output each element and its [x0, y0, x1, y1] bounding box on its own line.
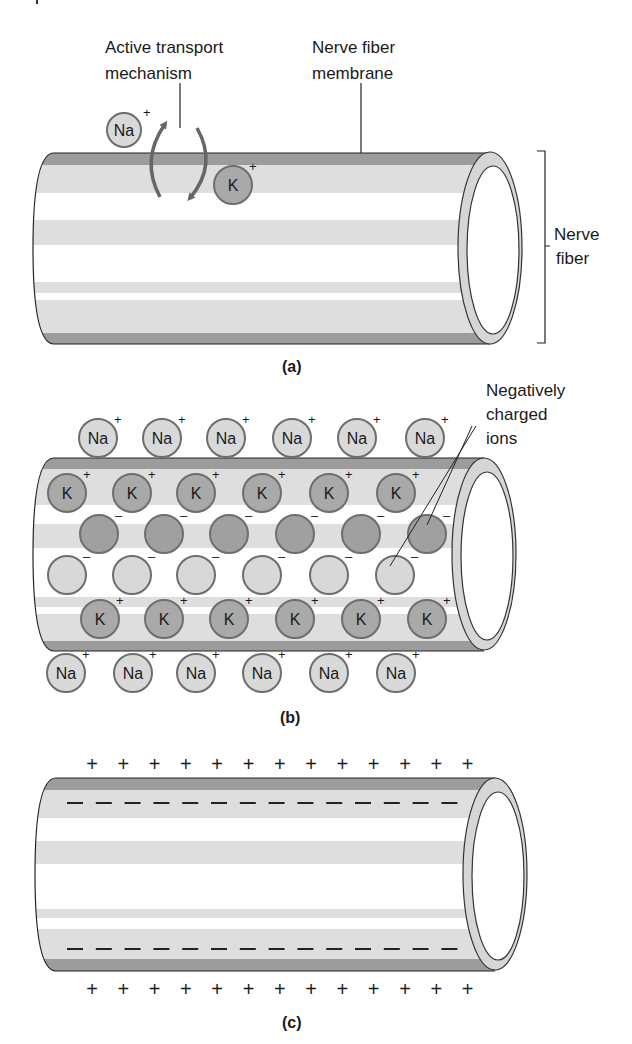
positive-charge: +	[399, 753, 411, 775]
svg-text:+: +	[377, 593, 385, 608]
caption-c: (c)	[282, 1014, 302, 1031]
nerve-fiber-label-line2: fiber	[556, 249, 589, 268]
svg-text:–: –	[278, 549, 286, 564]
sodium-ion: Na+	[207, 412, 250, 457]
sodium-ion: Na+	[79, 412, 122, 457]
svg-text:+: +	[83, 467, 91, 482]
svg-text:+: +	[345, 647, 353, 662]
svg-text:Na: Na	[347, 430, 368, 447]
svg-text:Na: Na	[216, 430, 237, 447]
membrane-label-line2: membrane	[312, 64, 393, 83]
svg-text:Na: Na	[252, 665, 273, 682]
svg-text:K: K	[127, 485, 138, 502]
positive-charge: +	[337, 753, 349, 775]
svg-text:K: K	[257, 485, 268, 502]
positive-charge: +	[149, 978, 161, 1000]
svg-text:K: K	[191, 485, 202, 502]
sodium-ion: Na+	[406, 412, 449, 457]
svg-text:+: +	[212, 647, 220, 662]
svg-text:+: +	[178, 412, 186, 427]
svg-text:–: –	[83, 549, 91, 564]
svg-text:K: K	[224, 611, 235, 628]
sodium-ion: Na+	[338, 412, 381, 457]
svg-text:+: +	[143, 105, 151, 120]
sodium-ion: Na+	[310, 647, 353, 692]
positive-charge: +	[180, 978, 192, 1000]
svg-text:–: –	[377, 508, 385, 523]
svg-text:Na: Na	[123, 665, 144, 682]
svg-text:+: +	[249, 159, 257, 174]
sodium-ion: Na+	[243, 647, 286, 692]
negative-ions-label-line1: Negatively	[486, 381, 566, 400]
positive-charge: +	[211, 978, 223, 1000]
svg-text:+: +	[278, 467, 286, 482]
positive-charge: +	[86, 753, 98, 775]
svg-text:K: K	[391, 485, 402, 502]
fiber-cylinder-a	[30, 153, 500, 345]
caption-a: (a)	[282, 358, 302, 375]
svg-text:K: K	[228, 177, 239, 194]
svg-text:+: +	[114, 412, 122, 427]
panel-a: Active transport mechanism Nerve fiber m…	[30, 38, 599, 375]
positive-charge: +	[337, 978, 349, 1000]
nerve-fiber-diagram: Active transport mechanism Nerve fiber m…	[0, 0, 632, 1044]
sodium-ion: Na+	[377, 647, 420, 692]
panel-b: Negatively charged ions Na+Na+Na+Na+Na+N…	[30, 381, 566, 726]
svg-text:+: +	[245, 593, 253, 608]
svg-text:+: +	[116, 593, 124, 608]
positive-charge: +	[368, 978, 380, 1000]
caption-b: (b)	[280, 709, 300, 726]
sodium-ion: Na+	[47, 647, 90, 692]
membrane-label-line1: Nerve fiber	[312, 38, 395, 57]
svg-text:+: +	[412, 467, 420, 482]
sodium-ion: Na+	[143, 412, 186, 457]
svg-text:K: K	[159, 611, 170, 628]
negative-ions-label-line2: charged	[486, 405, 547, 424]
svg-text:K: K	[422, 611, 433, 628]
sodium-ion: Na+	[177, 647, 220, 692]
negative-ions-label-line3: ions	[486, 429, 517, 448]
svg-text:K: K	[324, 485, 335, 502]
svg-text:–: –	[411, 549, 419, 564]
positive-charge: +	[305, 753, 317, 775]
active-transport-label-line1: Active transport	[105, 38, 223, 57]
svg-text:+: +	[212, 467, 220, 482]
svg-text:+: +	[441, 412, 449, 427]
positive-charge: +	[274, 753, 286, 775]
svg-text:+: +	[180, 593, 188, 608]
svg-text:Na: Na	[386, 665, 407, 682]
svg-text:–: –	[212, 549, 220, 564]
positive-charge: +	[180, 753, 192, 775]
active-transport-label-line2: mechanism	[105, 64, 192, 83]
positive-charge: +	[399, 978, 411, 1000]
nerve-fiber-bracket	[537, 151, 550, 343]
svg-text:+: +	[308, 412, 316, 427]
svg-text:K: K	[290, 611, 301, 628]
positive-charge: +	[462, 753, 474, 775]
svg-text:K: K	[356, 611, 367, 628]
positive-charge: +	[430, 978, 442, 1000]
svg-text:+: +	[149, 647, 157, 662]
svg-text:Na: Na	[282, 430, 303, 447]
positive-charge: +	[368, 753, 380, 775]
sodium-ion: Na +	[107, 105, 151, 147]
svg-text:+: +	[82, 647, 90, 662]
svg-text:+: +	[311, 593, 319, 608]
panel-c: ++++++++++++++++++++++++++ (c)	[30, 753, 527, 1031]
sodium-ion: Na+	[114, 647, 157, 692]
svg-text:+: +	[278, 647, 286, 662]
positive-charge: +	[305, 978, 317, 1000]
svg-text:–: –	[148, 549, 156, 564]
positive-charge: +	[462, 978, 474, 1000]
positive-charge: +	[211, 753, 223, 775]
svg-text:–: –	[180, 508, 188, 523]
positive-charge: +	[149, 753, 161, 775]
svg-text:+: +	[373, 412, 381, 427]
svg-text:–: –	[115, 508, 123, 523]
svg-text:Na: Na	[88, 430, 109, 447]
svg-text:Na: Na	[319, 665, 340, 682]
svg-text:Na: Na	[114, 122, 135, 139]
positive-charge: +	[117, 753, 129, 775]
fiber-cylinder-c	[30, 778, 500, 972]
positive-charge: +	[117, 978, 129, 1000]
